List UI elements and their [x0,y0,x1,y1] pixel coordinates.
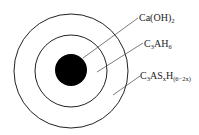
label-caoh2: Ca(OH)2 [139,12,174,24]
core-circle [55,54,87,86]
concentric-layer-diagram: Ca(OH)2 C3AH6 C3ASxH(6−2x) [0,0,199,135]
label-c3asxh: C3ASxH(6−2x) [140,70,191,83]
leader-line-caoh2 [83,18,138,58]
leader-line-c3asxh [113,76,140,95]
label-c3ah6: C3AH6 [144,38,172,50]
